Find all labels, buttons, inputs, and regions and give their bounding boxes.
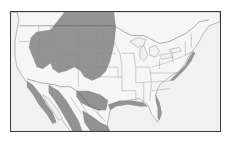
range-map [11, 12, 220, 131]
map-frame [10, 11, 221, 132]
